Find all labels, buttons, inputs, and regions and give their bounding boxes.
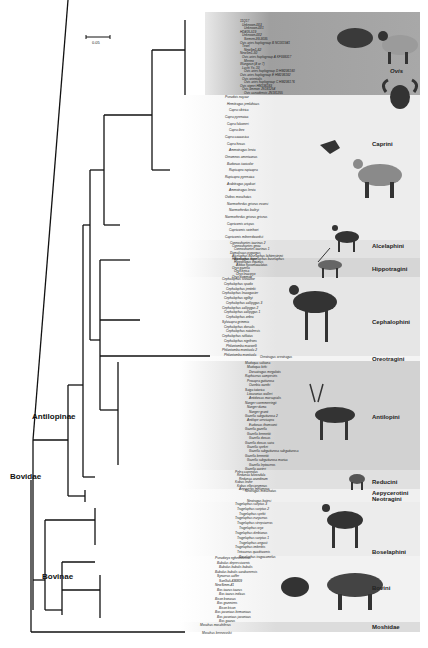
phylogenetic-tree xyxy=(0,0,428,648)
tip-label: Oreamnos americanus xyxy=(225,156,257,159)
tip-label: Capricornis crispus xyxy=(227,223,254,226)
tip-label: Rupicapra rupicapra xyxy=(229,169,258,172)
clade-label-ovis: Ovis xyxy=(390,68,403,74)
tip-label: Capra sibirica xyxy=(229,109,249,112)
tip-label: Sylvicapra grimmia xyxy=(222,321,249,324)
tip-label: Capra falconeri xyxy=(227,123,249,126)
tip-label: Naemorhedus griseus griseus xyxy=(225,216,267,219)
tip-label: Tragelaphus scriptus 3 xyxy=(235,503,267,506)
tip-label: Capricornis milneedwardsii xyxy=(225,236,263,239)
tip-label: Tragelaphus derbianus xyxy=(235,532,267,535)
tip-label: Naemorhedus baileyi xyxy=(229,209,259,212)
tip-label: Cephalophus callipygus 3 xyxy=(226,302,262,305)
tip-label: Ovibos moschatus xyxy=(225,196,251,199)
tip-label: Moschus moschiferus xyxy=(200,624,231,627)
tip-label: Capra caucasica xyxy=(225,136,249,139)
tip-label: Hemitragus jemlahicus xyxy=(227,103,259,106)
tip-label: Capra pyrenaica xyxy=(225,116,248,119)
tip-label: Tragelaphus oryx xyxy=(239,527,263,530)
tip-label: Ammotragus lervia xyxy=(229,149,256,152)
tip-label: Cephalophus spadix xyxy=(224,283,253,286)
clade-label-caprini: Caprini xyxy=(372,141,393,147)
tip-label: Oreotragus oreotragus xyxy=(260,356,292,359)
clade-label-reducini: Reducini xyxy=(372,479,397,485)
clade-label-bovini: Bovini xyxy=(372,585,390,591)
clade-label-alcelaphini: Alcelaphini xyxy=(372,243,404,249)
clade-label-neotragini: Neotragini xyxy=(372,496,402,502)
tip-label: Budorcas taxicolor xyxy=(227,163,253,166)
tip-label: Capricornis swinhoei xyxy=(229,229,258,232)
tip-label: Syncerus caffer xyxy=(217,575,239,578)
tip-label: Capra ibex xyxy=(229,129,244,132)
tip-label: Ourebia ourebi xyxy=(249,384,270,387)
tip-label: Pseudois nayaur xyxy=(225,96,249,99)
tip-label: Pseudoryx nghetinhensis xyxy=(215,557,251,560)
tip-label: Rupicapra pyrenaica xyxy=(225,176,254,179)
tip-label: Naemorhedus griseus evansi xyxy=(227,203,268,206)
scale-bar xyxy=(86,35,110,39)
scale-bar-label: 0.05 xyxy=(92,40,100,45)
tip-label: Tragelaphus scriptus 1 xyxy=(237,537,269,540)
tip-label: Bos javanicus birmanicus xyxy=(215,611,251,614)
clade-label-cephalophini: Cephalophini xyxy=(372,319,410,325)
tip-label: Bos grunniens xyxy=(217,602,237,605)
tip-label: Ammotragus lervia xyxy=(229,189,256,192)
tip-label: NewSimm-41 xyxy=(215,584,234,587)
tip-label: Cephalophus silvicultor xyxy=(222,278,255,281)
clade-label-boselaphini: Boselaphini xyxy=(372,549,406,555)
tip-label: Cephalophus nigrifrons xyxy=(224,340,257,343)
clade-label-antilopini: Antilopini xyxy=(372,414,400,420)
tip-label: Philantomba monticola xyxy=(224,354,256,357)
tip-label: Tragelaphus scriptus 2 xyxy=(237,508,269,511)
tip-label: Cephalophus rufilatus xyxy=(222,335,253,338)
tip-label: Moschus berezovskii xyxy=(202,632,232,635)
clade-label-oreotragini: Oreotragini xyxy=(372,356,404,362)
tip-label: Cephalophus zebra xyxy=(226,316,254,319)
tip-label: Capra hircus xyxy=(227,143,245,146)
tip-label: Bos taurus indicus xyxy=(219,593,245,596)
tree-branches xyxy=(31,0,210,632)
label-bovinae: Bovinae xyxy=(42,572,73,581)
label-antilopinae: Antilopinae xyxy=(32,412,76,421)
clade-label-moshidae: Moshidae xyxy=(372,624,400,630)
tip-label: Arabitragus jayakari xyxy=(227,183,255,186)
clade-label-hippotragini: Hippotragini xyxy=(372,266,407,272)
tip-label: Gazella dorcas xyxy=(249,437,270,440)
label-bovidae: Bovidae xyxy=(10,472,41,481)
tip-label: Cephalophus ogilbyi xyxy=(224,297,253,300)
tip-label: Ovis canadensis JN181255 xyxy=(244,92,283,95)
tip-label: Neotragus moschatus xyxy=(245,490,276,493)
tip-label: Bubalus bubalis bubalis xyxy=(219,566,253,569)
